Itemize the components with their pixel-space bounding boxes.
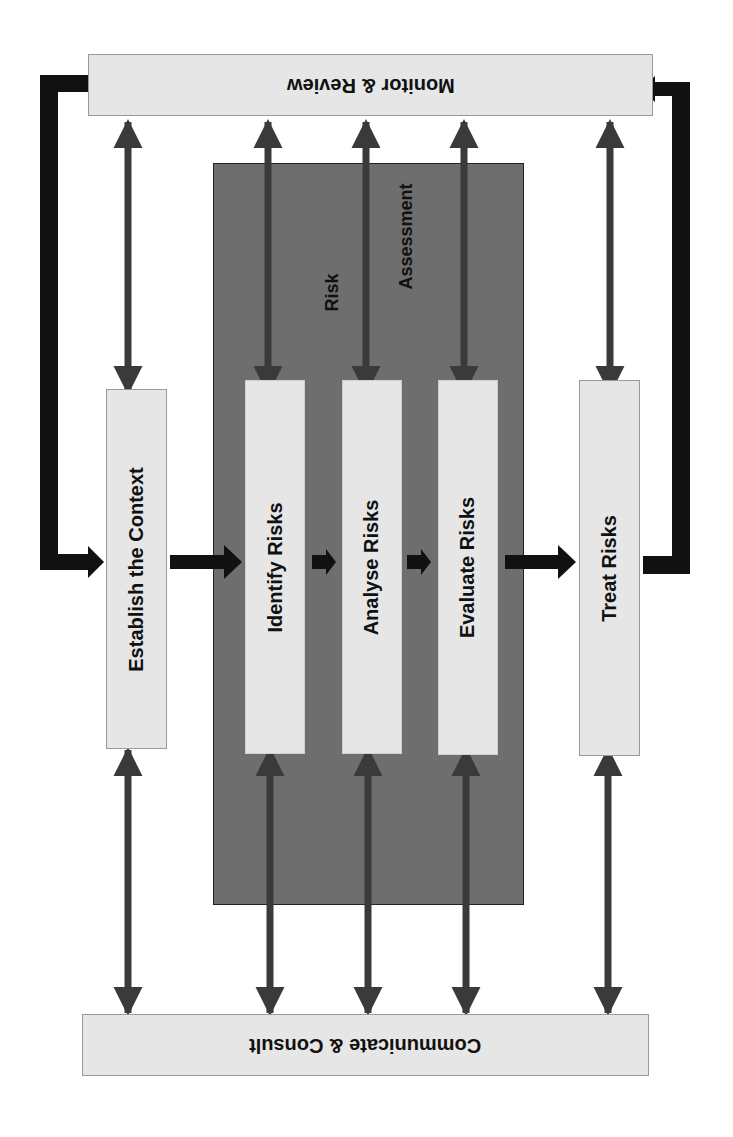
analyse-risks-label: Analyse Risks — [361, 499, 384, 635]
treat-risks-box: Treat Risks — [579, 380, 640, 756]
monitor-review-box: Monitor & Review — [88, 54, 653, 116]
identify-risks-box: Identify Risks — [245, 380, 305, 754]
establish-context-label: Establish the Context — [125, 467, 148, 671]
establish-context-box: Establish the Context — [106, 389, 167, 749]
evaluate-risks-label: Evaluate Risks — [457, 497, 480, 638]
analyse-risks-box: Analyse Risks — [342, 380, 402, 754]
communicate-consult-double-arrows — [128, 750, 608, 1013]
treat-risks-label: Treat Risks — [598, 515, 621, 622]
evaluate-risks-box: Evaluate Risks — [438, 380, 498, 755]
identify-risks-label: Identify Risks — [264, 502, 287, 632]
communicate-consult-box: Communicate & Consult — [82, 1014, 649, 1076]
risk-management-diagram: Risk Assessment — [0, 0, 733, 1137]
monitor-review-label: Monitor & Review — [287, 74, 455, 97]
communicate-consult-label: Communicate & Consult — [249, 1034, 481, 1057]
monitor-review-double-arrows — [128, 122, 610, 392]
